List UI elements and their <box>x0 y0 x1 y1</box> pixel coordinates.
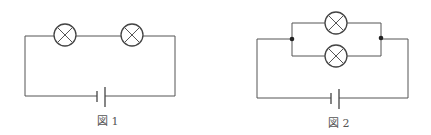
fig1-wire-loop <box>25 36 175 96</box>
circuit-diagrams <box>0 0 431 135</box>
fig1-battery-icon <box>97 87 105 107</box>
fig2-lamp-lower-icon <box>325 45 347 67</box>
fig2-caption: 図 2 <box>328 114 350 130</box>
figure-2-parallel-circuit <box>257 12 408 109</box>
fig1-lamp-1-icon <box>54 24 76 46</box>
fig1-lamp-2-icon <box>121 24 143 46</box>
fig1-caption: 図 1 <box>97 112 119 128</box>
fig2-battery-icon <box>331 89 339 109</box>
figure-1-series-circuit <box>25 24 175 107</box>
fig2-lamp-upper-icon <box>325 12 347 34</box>
fig2-junction-left <box>290 37 295 42</box>
fig2-junction-right <box>379 36 384 41</box>
